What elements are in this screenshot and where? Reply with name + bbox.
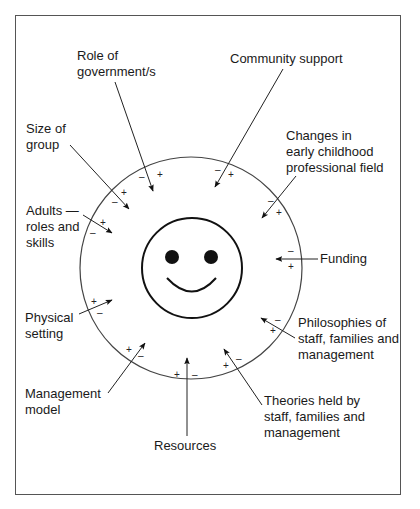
label-adults-roles: Adults — roles and skills <box>26 203 79 251</box>
label-line: professional field <box>286 160 384 176</box>
svg-text:+: + <box>157 169 163 180</box>
svg-text:+: + <box>100 217 106 228</box>
label-management-model: Management model <box>25 386 101 418</box>
label-line: Management <box>25 386 101 402</box>
label-physical-setting: Physical setting <box>25 310 73 342</box>
arrow-community-support <box>215 69 283 187</box>
label-line: group <box>26 137 66 153</box>
label-line: model <box>25 402 101 418</box>
label-line: roles and <box>26 219 79 235</box>
svg-text:–: – <box>275 314 281 325</box>
arrow-adults-roles <box>83 215 112 233</box>
label-changes-ec-field: Changes in early childhood professional … <box>286 128 384 176</box>
svg-text:–: – <box>268 195 274 206</box>
svg-text:–: – <box>192 369 198 380</box>
svg-text:+: + <box>91 296 97 307</box>
label-line: skills <box>26 235 79 251</box>
label-line: Resources <box>154 438 216 454</box>
svg-text:–: – <box>288 245 294 256</box>
label-funding: Funding <box>320 251 367 267</box>
label-line: Theories held by <box>264 393 365 409</box>
influence-signs: –+ –+ –+ –+ –+ –+ +– –+ +– –+ +– <box>90 164 294 380</box>
label-line: management <box>298 347 399 363</box>
label-line: early childhood <box>286 144 384 160</box>
svg-text:+: + <box>276 207 282 218</box>
label-line: Philosophies of <box>298 315 399 331</box>
svg-text:–: – <box>90 227 96 238</box>
diagram-canvas: –+ –+ –+ –+ –+ –+ +– –+ +– –+ +– Role of… <box>0 0 420 509</box>
svg-text:–: – <box>112 196 118 207</box>
label-line: government/s <box>77 64 156 80</box>
svg-text:–: – <box>97 307 103 318</box>
label-line: staff, families and <box>298 331 399 347</box>
svg-text:–: – <box>236 353 242 364</box>
label-line: staff, families and <box>264 409 365 425</box>
svg-text:+: + <box>174 369 180 380</box>
svg-text:+: + <box>288 261 294 272</box>
svg-text:–: – <box>139 171 145 182</box>
label-line: setting <box>25 326 73 342</box>
svg-text:+: + <box>270 325 276 336</box>
outer-circle <box>80 157 302 379</box>
svg-text:+: + <box>126 344 132 355</box>
label-philosophies: Philosophies of staff, families and mana… <box>298 315 399 363</box>
arrow-size-of-group <box>70 145 129 209</box>
label-resources: Resources <box>154 438 216 454</box>
arrow-role-of-government <box>115 82 153 191</box>
label-line: Community support <box>230 51 343 67</box>
smiley-face-icon <box>142 218 242 318</box>
label-role-of-government: Role of government/s <box>77 48 156 80</box>
svg-text:+: + <box>228 169 234 180</box>
label-line: Changes in <box>286 128 384 144</box>
label-line: management <box>264 425 365 441</box>
label-line: Size of <box>26 121 66 137</box>
label-line: Role of <box>77 48 156 64</box>
svg-text:–: – <box>138 350 144 361</box>
svg-text:–: – <box>215 164 221 175</box>
label-line: Adults — <box>26 203 79 219</box>
svg-text:+: + <box>121 187 127 198</box>
label-line: Physical <box>25 310 73 326</box>
label-size-of-group: Size of group <box>26 121 66 153</box>
label-theories: Theories held by staff, families and man… <box>264 393 365 441</box>
label-line: Funding <box>320 251 367 267</box>
label-community-support: Community support <box>230 51 343 67</box>
svg-text:+: + <box>223 360 229 371</box>
